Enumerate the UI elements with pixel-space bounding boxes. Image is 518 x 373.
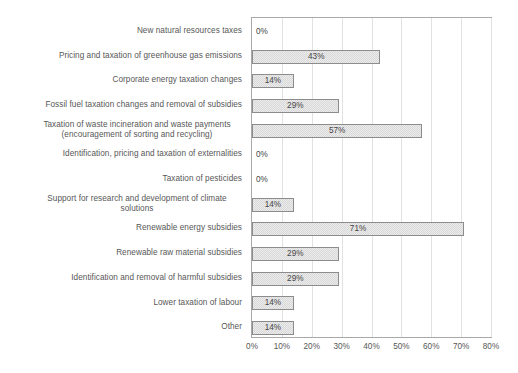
x-axis-tick-label: 70% — [453, 341, 469, 353]
bar-row: 0% — [252, 148, 493, 162]
x-axis-tick-label: 80% — [483, 341, 499, 353]
bar-value-label: 14% — [252, 74, 294, 88]
x-axis-tick-label: 40% — [363, 341, 379, 353]
bar-value-label: 0% — [256, 25, 268, 39]
category-label: Fossil fuel taxation changes and removal… — [0, 100, 246, 110]
bar-value-label: 14% — [252, 321, 294, 335]
bar-value-label: 71% — [252, 222, 464, 236]
category-label: Pricing and taxation of greenhouse gas e… — [0, 51, 246, 61]
x-axis-tick-label: 20% — [304, 341, 320, 353]
bar-value-label: 0% — [256, 173, 268, 187]
bar-row: 14% — [252, 198, 493, 212]
plot-area: 0%43%14%29%57%0%0%14%71%29%29%14%14% — [251, 17, 492, 338]
category-label: Identification, pricing and taxation of … — [0, 149, 246, 159]
x-axis-tick-label: 50% — [393, 341, 409, 353]
category-label-column: New natural resources taxesPricing and t… — [0, 17, 246, 338]
bar-row: 43% — [252, 50, 493, 64]
bar-value-label: 14% — [252, 198, 294, 212]
bar-row: 14% — [252, 74, 493, 88]
bar-row: 0% — [252, 25, 493, 39]
category-label: Taxation of pesticides — [0, 174, 246, 184]
bar-row: 14% — [252, 296, 493, 310]
bar-value-label: 29% — [252, 247, 339, 261]
category-label: New natural resources taxes — [0, 26, 246, 36]
category-label: Support for research and development of … — [0, 194, 246, 214]
bar-chart: New natural resources taxesPricing and t… — [0, 0, 518, 373]
bar-row: 14% — [252, 321, 493, 335]
x-axis-tick-label: 0% — [246, 341, 258, 353]
bar-row: 29% — [252, 272, 493, 286]
bar-row: 29% — [252, 247, 493, 261]
x-axis-tick-label: 30% — [333, 341, 349, 353]
bar-value-label: 57% — [252, 124, 422, 138]
category-label: Identification and removal of harmful su… — [0, 273, 246, 283]
bar-value-label: 43% — [252, 50, 380, 64]
bar-row: 71% — [252, 222, 493, 236]
category-label: Lower taxation of labour — [0, 298, 246, 308]
category-label: Renewable raw material subsidies — [0, 248, 246, 258]
category-label: Corporate energy taxation changes — [0, 75, 246, 85]
x-axis-tick-label: 60% — [423, 341, 439, 353]
bar-row: 0% — [252, 173, 493, 187]
bar-row: 29% — [252, 99, 493, 113]
x-axis: 0%10%20%30%40%50%60%70%80% — [251, 341, 492, 357]
category-label: Renewable energy subsidies — [0, 223, 246, 233]
bar-value-label: 29% — [252, 99, 339, 113]
category-label: Other — [0, 322, 246, 332]
category-label: Taxation of waste incineration and waste… — [0, 120, 246, 140]
bar-value-label: 14% — [252, 296, 294, 310]
bar-value-label: 29% — [252, 272, 339, 286]
bar-value-label: 0% — [256, 148, 268, 162]
x-axis-tick-label: 10% — [274, 341, 290, 353]
bar-row: 57% — [252, 124, 493, 138]
